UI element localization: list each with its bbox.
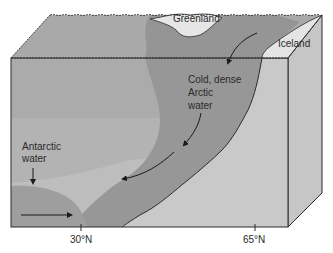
label-arctic-water-1: Cold, dense xyxy=(188,74,241,86)
axis-label-30n: 30°N xyxy=(70,234,92,246)
ocean-block-diagram: Greenland Iceland Cold, dense Arctic wat… xyxy=(0,0,333,253)
label-iceland: Iceland xyxy=(278,38,310,50)
label-arctic-water-2: Arctic xyxy=(188,87,213,99)
label-greenland: Greenland xyxy=(173,13,220,25)
label-antarctic-water-1: Antarctic xyxy=(22,141,61,153)
label-antarctic-water-2: water xyxy=(22,153,46,165)
label-arctic-water-3: water xyxy=(188,100,212,112)
axis-label-65n: 65°N xyxy=(243,234,265,246)
